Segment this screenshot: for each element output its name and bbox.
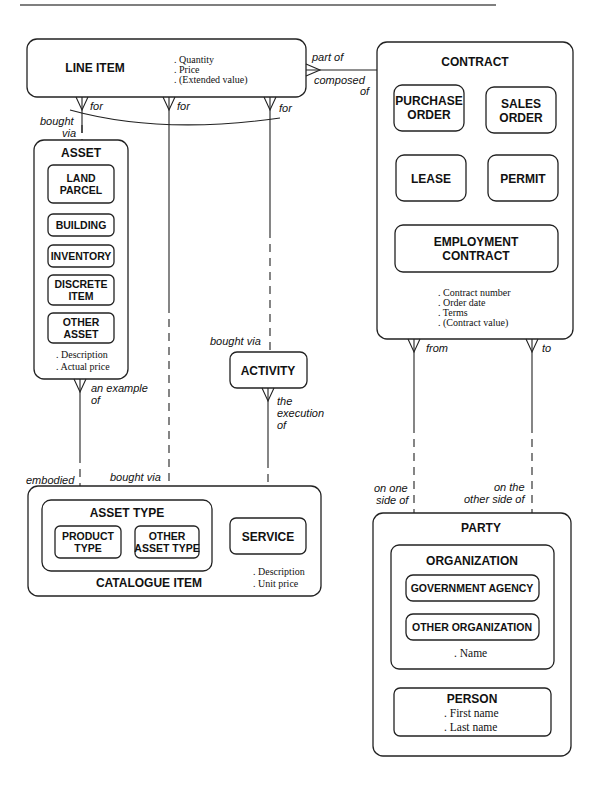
subtype-lease[interactable]: LEASE [396,155,466,201]
asset-type-title: ASSET TYPE [90,506,165,520]
rel-label-execution: execution [277,407,324,419]
subtype-product-type[interactable]: PRODUCT TYPE [55,526,121,558]
contract-title: CONTRACT [441,55,509,69]
label: PERMIT [500,172,546,186]
label: ORDER [407,108,451,122]
rel-label-of: of [277,419,287,431]
entity-asset-type[interactable]: ASSET TYPE PRODUCT TYPE OTHER ASSET TYPE [42,500,212,571]
subtype-discrete-item[interactable]: DISCRETE ITEM [48,275,114,305]
rel-label-other-side-of: other side of [464,493,525,505]
label: PURCHASE [395,94,462,108]
label: OTHER [149,530,186,542]
entity-line-item[interactable]: LINE ITEM . Quantity . Price . (Extended… [27,39,306,97]
label: PARCEL [60,184,103,196]
label: EMPLOYMENT [434,235,519,249]
rel-contract-party: from on one side of to on the other side… [374,339,551,513]
subtype-permit[interactable]: PERMIT [488,155,558,201]
label: DISCRETE [54,278,107,290]
contract-attr: . (Contract value) [438,317,508,329]
subtype-inventory[interactable]: INVENTORY [48,245,114,267]
subtype-building[interactable]: BUILDING [48,214,114,236]
entity-organization[interactable]: ORGANIZATION GOVERNMENT AGENCY OTHER ORG… [391,545,554,669]
rel-label-for-1: for [90,100,104,112]
entity-service[interactable]: SERVICE [230,518,306,554]
rel-label-side-of: side of [376,494,409,506]
rel-label-of: of [91,394,101,406]
entity-person[interactable]: PERSON . First name . Last name [394,688,551,736]
label: LAND [66,172,96,184]
rel-label-composed: composed [314,74,366,86]
asset-attr: . Description [56,349,108,360]
rel-label-for-3: for [279,102,293,114]
label: ASSET TYPE [134,542,199,554]
rel-label-to: to [542,342,551,354]
person-title: PERSON [447,692,498,706]
label: CONTRACT [442,249,510,263]
entity-asset[interactable]: ASSET LAND PARCEL BUILDING INVENTORY DIS… [34,125,128,379]
catalogue-attr: . Unit price [253,578,299,589]
label: ITEM [68,290,93,302]
person-attr: . Last name [444,721,497,733]
service-title: SERVICE [242,530,294,544]
subtype-other-asset-type[interactable]: OTHER ASSET TYPE [134,526,199,558]
label: PRODUCT [62,530,115,542]
subtype-land-parcel[interactable]: LAND PARCEL [48,165,114,203]
label: ORDER [499,111,543,125]
rel-label-the: the [277,395,292,407]
asset-attr: . Actual price [56,361,110,372]
activity-title: ACTIVITY [241,364,296,378]
subtype-government-agency[interactable]: GOVERNMENT AGENCY [406,575,539,601]
line-item-title: LINE ITEM [65,61,124,75]
entity-party[interactable]: PARTY ORGANIZATION GOVERNMENT AGENCY OTH… [373,513,571,756]
entity-catalogue-item[interactable]: ASSET TYPE PRODUCT TYPE OTHER ASSET TYPE… [28,486,321,596]
rel-label-an-example: an example [91,382,148,394]
subtype-other-asset[interactable]: OTHER ASSET [48,313,114,343]
er-diagram: LINE ITEM . Quantity . Price . (Extended… [0,0,600,785]
rel-label-bought-via-catalogue: bought via [110,471,161,483]
catalogue-attr: . Description [253,566,305,577]
rel-label-part-of: part of [311,51,344,63]
entity-activity[interactable]: ACTIVITY [230,352,307,388]
organization-attr: . Name [454,647,487,659]
label: LEASE [411,172,451,186]
rel-line-item-contract: part of composed of [306,51,377,97]
label: BUILDING [56,219,107,231]
rel-label-via: via [62,127,76,139]
label: ASSET [63,328,99,340]
label: OTHER [63,316,100,328]
entity-contract[interactable]: CONTRACT PURCHASE ORDER SALES ORDER LEAS… [377,42,573,339]
rel-label-bought-via-activity: bought via [210,335,261,347]
subtype-purchase-order[interactable]: PURCHASE ORDER [394,85,464,131]
rel-label-composed-of: of [360,85,370,97]
rel-label-on-the: on the [494,481,525,493]
subtype-other-organization[interactable]: OTHER ORGANIZATION [406,614,539,640]
rel-label-embodied: embodied [26,474,75,486]
label: TYPE [74,542,101,554]
asset-title: ASSET [61,146,102,160]
label: OTHER ORGANIZATION [412,621,532,633]
label: INVENTORY [51,250,112,262]
label: GOVERNMENT AGENCY [411,582,534,594]
person-attr: . First name [444,707,499,719]
rel-label-on-one: on one [374,482,408,494]
catalogue-item-title: CATALOGUE ITEM [96,576,202,590]
party-title: PARTY [461,521,501,535]
rel-label-from: from [426,342,448,354]
label: SALES [501,97,541,111]
line-item-attr: . (Extended value) [174,74,248,86]
rel-label-for-2: for [177,100,191,112]
subtype-employment-contract[interactable]: EMPLOYMENT CONTRACT [395,225,558,272]
organization-title: ORGANIZATION [426,554,518,568]
rel-label-bought: bought [40,115,75,127]
subtype-sales-order[interactable]: SALES ORDER [486,87,556,133]
